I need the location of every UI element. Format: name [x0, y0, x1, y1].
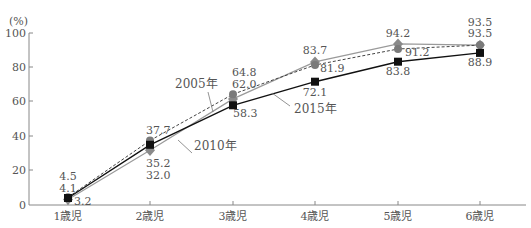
value-label: 62.0	[232, 78, 257, 91]
value-label: 88.9	[468, 56, 493, 69]
value-label: 83.8	[386, 65, 411, 78]
value-label: 94.2	[386, 27, 411, 40]
value-label: 83.7	[303, 44, 328, 57]
value-label: 32.0	[146, 169, 171, 182]
value-label: 4.1	[59, 182, 77, 195]
series-2015-line	[68, 53, 480, 198]
value-label: 72.1	[303, 86, 328, 99]
series-2010-markers	[63, 39, 485, 206]
y-tick-label: 20	[12, 164, 26, 177]
series-2005-markers	[64, 41, 484, 201]
series-label-2005: 2005年	[175, 77, 218, 91]
value-label: 37.7	[146, 124, 171, 137]
y-tick-label: 40	[12, 130, 26, 143]
value-label: 93.5	[468, 27, 493, 40]
x-tick-label: 6歳児	[466, 210, 495, 223]
x-tick-label: 3歳児	[219, 210, 248, 223]
series-2015-markers	[64, 49, 484, 202]
axes	[29, 33, 526, 205]
value-label: 58.3	[233, 107, 258, 120]
y-tick-label: 60	[12, 95, 26, 108]
series-label-2015: 2015年	[294, 102, 337, 116]
line-chart: (%) 100 80 60 40 20 0 1歳児 2歳児 3歳児 4歳児 5歳…	[0, 0, 531, 228]
series-2005-line	[68, 45, 480, 197]
y-tick-label: 100	[5, 27, 26, 40]
series-2010-line	[68, 44, 480, 200]
value-label: 81.9	[320, 62, 345, 75]
y-tick-label: 0	[19, 199, 26, 212]
y-tick-label: 80	[12, 61, 26, 74]
series-label-2010: 2010年	[194, 139, 237, 153]
x-tick-label: 4歳児	[301, 210, 330, 223]
x-tick-label: 2歳児	[136, 210, 165, 223]
value-label: 91.2	[405, 46, 430, 59]
x-tick-label: 1歳児	[54, 210, 83, 223]
x-tick-label: 5歳児	[384, 210, 413, 223]
value-label: 3.2	[74, 195, 92, 208]
